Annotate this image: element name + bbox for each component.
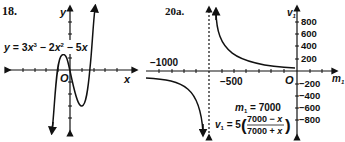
y-axis-label: y <box>59 6 67 18</box>
y-axis-label: v1 <box>287 7 297 19</box>
svg-text:600: 600 <box>301 28 317 39</box>
svg-text:−200: −200 <box>299 78 320 89</box>
x-tick-label-neg1000: −1000 <box>150 57 179 68</box>
svg-text:y = 3x3 − 2x2 − 5x: y = 3x3 − 2x2 − 5x <box>3 41 89 53</box>
equation-label: y = 3x3 − 2x2 − 5x <box>2 40 89 54</box>
annotation-v1-formula: v1 = 5 ( 7000 − x 7000 + x ) <box>215 114 291 136</box>
problem-label-18: 18. <box>2 4 17 18</box>
charts-canvas: 18. y x O y = 3x3 − 2x2 − 5x 20a. <box>0 0 345 142</box>
annotation-m1: m1 = 7000 <box>235 102 281 114</box>
graph-18: 18. y x O y = 3x3 − 2x2 − 5x <box>2 4 135 133</box>
curve-branch-left <box>146 78 203 132</box>
origin-label: O <box>285 74 294 86</box>
svg-text:−400: −400 <box>299 90 320 101</box>
svg-text:200: 200 <box>301 53 317 64</box>
svg-text:7000 − x: 7000 − x <box>247 114 283 124</box>
curve-branch-right <box>216 12 295 68</box>
svg-text:v1 = 5: v1 = 5 <box>215 119 241 131</box>
svg-text:7000 + x: 7000 + x <box>247 126 283 136</box>
graph-20a: 20a. v1 m1 O −1000 −500 800 600 400 <box>146 5 345 137</box>
svg-text:−600: −600 <box>299 102 320 113</box>
x-axis-label: m1 <box>332 73 345 85</box>
problem-label-20a: 20a. <box>165 5 185 17</box>
svg-text:800: 800 <box>301 16 317 27</box>
origin-label: O <box>60 72 69 84</box>
x-axis-label: x <box>123 73 131 85</box>
svg-text:−800: −800 <box>299 114 320 125</box>
x-tick-label-neg500: −500 <box>220 76 243 87</box>
svg-text:): ) <box>285 116 291 135</box>
svg-text:400: 400 <box>301 40 317 51</box>
